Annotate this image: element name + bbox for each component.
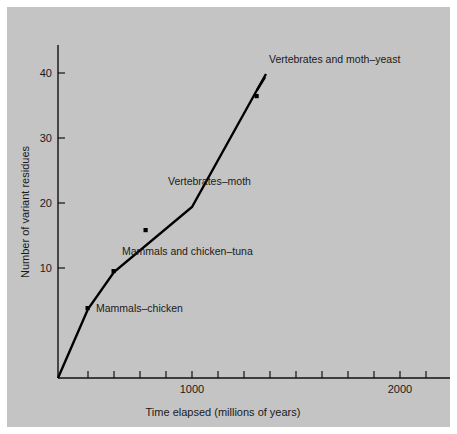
x-axis-title: Time elapsed (millions of years) [146, 406, 301, 418]
line-tip-segment [257, 74, 266, 90]
scatter-line-chart: 40 30 20 10 1000 2000 [7, 7, 450, 427]
data-point-mammals-chicken [86, 306, 90, 310]
x-tick-label-1000: 1000 [180, 383, 204, 395]
data-point-vertebrates-moth [144, 228, 148, 232]
figure-panel: 40 30 20 10 1000 2000 [7, 7, 450, 427]
y-tick-labels: 40 30 20 10 [40, 67, 52, 274]
x-tick-marks [88, 371, 426, 378]
y-tick-label-20: 20 [40, 197, 52, 209]
y-tick-label-10: 10 [40, 262, 52, 274]
point-annotations: Mammals–chicken Mammals and chicken–tuna… [96, 53, 400, 314]
x-tick-labels: 1000 2000 [180, 383, 412, 395]
y-tick-label-30: 30 [40, 132, 52, 144]
data-series-group [58, 74, 266, 378]
x-tick-label-2000: 2000 [388, 383, 412, 395]
y-tick-label-40: 40 [40, 67, 52, 79]
annotation-vertebrates-moth-yeast: Vertebrates and moth–yeast [269, 53, 400, 65]
annotation-mammals-chicken-tuna: Mammals and chicken–tuna [122, 245, 253, 257]
data-line-cytochrome-c [58, 77, 265, 378]
annotation-mammals-chicken: Mammals–chicken [96, 302, 183, 314]
annotation-vertebrates-moth: Vertebrates–moth [168, 175, 251, 187]
y-axis-title: Number of variant residues [19, 145, 31, 278]
data-point-vertebrates-moth-yeast [255, 94, 259, 98]
y-tick-marks [58, 73, 65, 268]
data-point-mammals-chicken-tuna [112, 269, 116, 273]
